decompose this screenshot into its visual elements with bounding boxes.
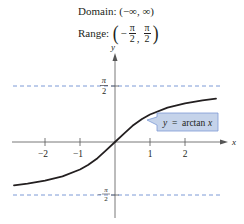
svg-text:π: π — [104, 186, 108, 194]
x-tick-label-neg2: −2 — [38, 149, 48, 159]
svg-text:π: π — [102, 75, 107, 85]
svg-text:arctan: arctan — [182, 118, 205, 128]
svg-text:y: y — [162, 118, 168, 128]
y-axis-arrow-icon — [113, 53, 118, 61]
x-tick-label-1: 1 — [148, 149, 153, 159]
x-axis-label: x — [231, 137, 236, 147]
upper-asymptote-label: π 2 — [100, 75, 108, 96]
x-axis-arrow-icon — [220, 140, 228, 145]
x-tick-label-2: 2 — [183, 149, 188, 159]
svg-text:x: x — [207, 118, 213, 128]
svg-text:=: = — [172, 118, 177, 128]
arctan-plot: −2 −1 1 2 y x π 2 − π 2 y = arctan x — [0, 0, 244, 224]
lower-asymptote-label: − π 2 — [98, 186, 110, 203]
y-axis-label: y — [110, 42, 115, 52]
svg-text:2: 2 — [102, 86, 106, 96]
svg-text:2: 2 — [104, 195, 108, 203]
x-tick-label-neg1: −1 — [73, 149, 83, 159]
svg-text:−: − — [98, 191, 102, 199]
